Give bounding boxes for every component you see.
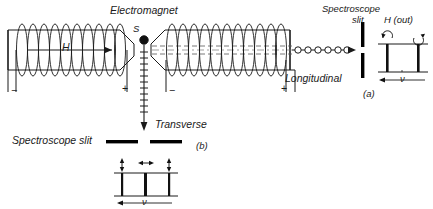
left-terminal-minus: −: [11, 84, 17, 96]
left-terminal-plus: +: [122, 82, 128, 94]
inset-a-nu-label: ν: [400, 73, 405, 84]
spectroscope-slit-vertical: [361, 22, 364, 78]
inset-a-header: H (out): [384, 14, 413, 25]
longitudinal-beam: [292, 47, 356, 54]
spectroscope-slit-label-bottom: Spectroscope slit: [12, 134, 92, 146]
spectroscope-slit-label-line2: slit: [352, 14, 364, 25]
electromagnet-label: Electromagnet: [110, 4, 178, 16]
field-label: H: [62, 41, 70, 53]
inset-b-nu-label: ν: [142, 196, 147, 207]
zeeman-effect-figure: Electromagnet S H Longitudinal Transvers…: [0, 0, 433, 209]
transverse-label: Transverse: [155, 118, 207, 130]
source-label: S: [133, 23, 139, 34]
light-source-S: [140, 36, 148, 44]
longitudinal-label: Longitudinal: [285, 72, 342, 84]
inset-b-tag: (b): [196, 140, 208, 151]
right-terminal-plus: +: [281, 82, 287, 94]
inset-a-tag: (a): [363, 88, 375, 99]
spectroscope-slit-horizontal: [106, 140, 182, 143]
right-terminal-minus: −: [169, 84, 175, 96]
figure-drawing: [0, 0, 433, 209]
transverse-beam: [140, 45, 148, 131]
spectroscope-slit-label-line1: Spectroscope: [322, 3, 380, 14]
